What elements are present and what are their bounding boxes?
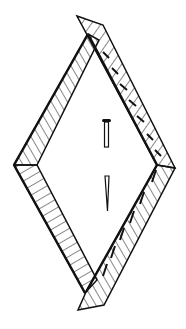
board-upper-left <box>14 34 99 165</box>
board-lower-right <box>78 165 175 310</box>
board-lower-left <box>14 165 97 293</box>
diamond-frame-drawing <box>0 0 186 329</box>
nail-icon <box>102 119 111 211</box>
board-upper-right <box>77 16 175 168</box>
illustration-canvas <box>0 0 186 329</box>
